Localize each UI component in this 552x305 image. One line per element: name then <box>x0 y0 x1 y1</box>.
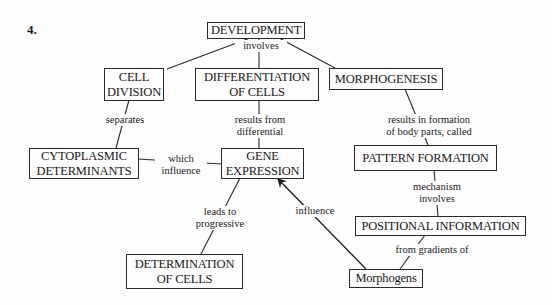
edge-morphogens-gene-expression-arrow <box>278 179 366 269</box>
link-label-which-influence: which influence <box>155 153 207 177</box>
node-cytoplasmic-determinants: CYTOPLASMIC DETERMINANTS <box>29 148 139 179</box>
link-label-separates: separates <box>99 114 151 126</box>
link-label-involves: involves <box>235 40 287 52</box>
node-development: DEVELOPMENT <box>207 22 305 39</box>
node-morphogens: Morphogens <box>349 269 423 288</box>
concept-map: 4. DEVELOPMENT CELL DIVISION DIFFERENTIA… <box>0 0 552 305</box>
node-determination-of-cells: DETERMINATION OF CELLS <box>126 254 243 289</box>
link-label-influence: influence <box>289 205 341 217</box>
link-label-mechanism-involves: mechanism involves <box>404 181 470 205</box>
node-morphogenesis: MORPHOGENESIS <box>329 68 443 90</box>
figure-number: 4. <box>27 22 37 38</box>
node-differentiation-of-cells: DIFFERENTIATION OF CELLS <box>195 68 319 101</box>
link-label-results-from-differential: results from differential <box>222 114 298 138</box>
link-label-from-gradients-of: from gradients of <box>383 244 481 256</box>
link-label-leads-to-progressive: leads to progressive <box>187 206 253 230</box>
link-label-results-in-formation: results in formation of body parts, call… <box>370 114 488 138</box>
node-cell-division: CELL DIVISION <box>104 68 164 101</box>
node-pattern-formation: PATTERN FORMATION <box>354 145 497 171</box>
edge-development-morphogenesis <box>279 38 335 68</box>
node-positional-information: POSITIONAL INFORMATION <box>355 216 526 236</box>
node-gene-expression: GENE EXPRESSION <box>221 148 304 179</box>
